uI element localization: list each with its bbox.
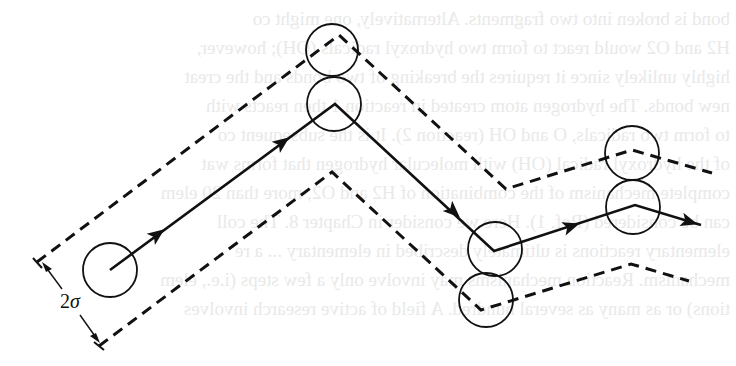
molecule-circle-mid-upper — [468, 222, 522, 276]
diameter-label: 2σ — [60, 290, 80, 313]
molecule-circles — [83, 24, 660, 327]
arrowhead-icon — [561, 217, 582, 236]
molecule-circle-top-upper — [306, 24, 358, 76]
arrowhead-icon — [42, 262, 52, 272]
upper-envelope-dashed-line — [37, 35, 712, 262]
lower-envelope-dashed-line — [99, 172, 689, 346]
molecule-circle-right-upper — [605, 126, 659, 180]
molecule-trajectory-line — [110, 104, 701, 270]
sigma-symbol: σ — [70, 290, 80, 312]
diameter-label-prefix: 2 — [60, 290, 70, 312]
arrowhead-icon — [90, 333, 100, 343]
arrowhead-icon — [679, 213, 699, 231]
molecule-circle-mid-lower — [459, 273, 513, 327]
collision-cylinder-diagram — [0, 0, 736, 366]
